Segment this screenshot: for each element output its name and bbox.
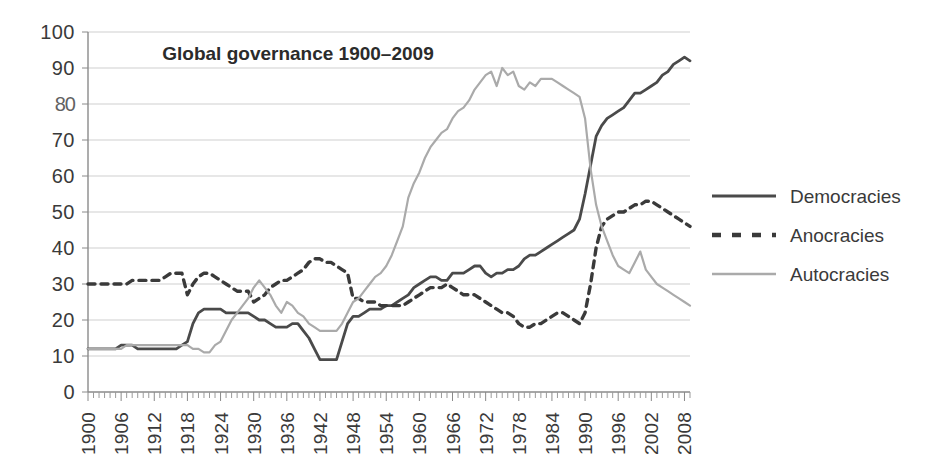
y-tick-label-100: 100 [40,21,75,43]
x-tick-label-1930: 1930 [244,412,265,455]
x-tick-label-1978: 1978 [509,412,530,455]
x-tick-label-1906: 1906 [111,412,132,455]
y-tick-label-70: 70 [52,129,75,151]
x-tick-label-1972: 1972 [476,412,497,455]
x-tick-label-2002: 2002 [641,412,662,455]
page-title: Global governance 1900–2009 [162,43,433,64]
legend-label-anocracies: Anocracies [790,225,884,246]
x-tick-label-1996: 1996 [608,412,629,455]
y-tick-label-90: 90 [52,57,75,79]
x-tick-label-1900: 1900 [78,412,99,455]
y-tick-label-50: 50 [52,201,75,223]
x-tick-label-2008: 2008 [674,412,695,455]
x-tick-label-1966: 1966 [443,412,464,455]
y-tick-label-30: 30 [52,273,75,295]
x-tick-label-1924: 1924 [211,412,232,455]
y-tick-label-60: 60 [52,165,75,187]
x-tick-label-1948: 1948 [343,412,364,455]
y-tick-label-10: 10 [52,345,75,367]
y-tick-label-80: 80 [55,93,76,115]
legend-label-autocracies: Autocracies [790,264,889,285]
x-tick-label-1936: 1936 [277,412,298,455]
legend-label-democracies: Democracies [790,186,901,207]
x-tick-label-1918: 1918 [177,412,198,455]
x-tick-label-1990: 1990 [575,412,596,455]
y-tick-label-0: 0 [63,381,75,403]
x-tick-label-1960: 1960 [409,412,430,455]
x-tick-label-1912: 1912 [144,412,165,455]
chart-figure: 0102030405060708090100 19001906191219181… [0,0,936,475]
x-tick-label-1954: 1954 [376,412,397,455]
x-tick-label-1942: 1942 [310,412,331,455]
x-tick-label-1984: 1984 [542,412,563,455]
y-tick-label-20: 20 [52,309,75,331]
global-governance-line-chart: 0102030405060708090100 19001906191219181… [0,0,936,475]
y-tick-label-40: 40 [52,237,75,259]
